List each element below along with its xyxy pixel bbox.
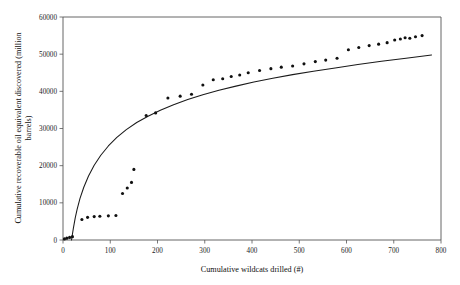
- x-tick-label: 400: [247, 247, 258, 255]
- data-point: [132, 168, 135, 171]
- data-point: [368, 44, 371, 47]
- data-point: [201, 83, 204, 86]
- chart-canvas: 0100200300400500600700800 01000020000300…: [0, 0, 460, 285]
- data-point: [230, 75, 233, 78]
- y-tick-label: 40000: [39, 88, 57, 96]
- y-tick-label: 0: [53, 237, 57, 245]
- x-axis-tick-labels: 0100200300400500600700800: [61, 247, 447, 255]
- data-point: [145, 114, 148, 117]
- data-point: [336, 57, 339, 60]
- data-point: [269, 67, 272, 70]
- data-point: [154, 111, 157, 114]
- data-point: [126, 186, 129, 189]
- data-point: [98, 215, 101, 218]
- x-tick-label: 600: [341, 247, 352, 255]
- x-tick-label: 300: [199, 247, 210, 255]
- data-point: [408, 37, 411, 40]
- chart-figure: 0100200300400500600700800 01000020000300…: [0, 0, 460, 285]
- data-point: [238, 73, 241, 76]
- data-point: [399, 37, 402, 40]
- data-point: [130, 181, 133, 184]
- data-point: [421, 34, 424, 37]
- x-axis-title: Cumulative wildcats drilled (#): [201, 265, 304, 274]
- y-tick-label: 20000: [39, 162, 57, 170]
- data-point: [357, 46, 360, 49]
- y-tick-label: 10000: [39, 199, 57, 207]
- fitted-curve: [72, 55, 432, 240]
- data-point: [65, 237, 68, 240]
- data-point: [68, 236, 71, 239]
- y-tick-label: 50000: [39, 51, 57, 59]
- data-point: [86, 216, 89, 219]
- data-point: [404, 36, 407, 39]
- y-axis-ticks: [60, 17, 64, 240]
- data-point: [114, 214, 117, 217]
- x-tick-label: 800: [436, 247, 447, 255]
- y-tick-label: 30000: [39, 125, 57, 133]
- x-tick-label: 100: [105, 247, 116, 255]
- data-point: [166, 96, 169, 99]
- data-point: [393, 38, 396, 41]
- data-point: [347, 48, 350, 51]
- data-point: [80, 218, 83, 221]
- data-point: [190, 93, 193, 96]
- y-axis-title-line-1: Cumulative recoverable oil equivalent di…: [14, 32, 23, 223]
- data-point: [221, 77, 224, 80]
- data-point: [212, 78, 215, 81]
- x-tick-label: 700: [388, 247, 399, 255]
- y-tick-label: 60000: [39, 14, 57, 22]
- x-tick-label: 500: [294, 247, 305, 255]
- data-point: [247, 71, 250, 74]
- y-axis-title-line-2: barrels): [24, 115, 33, 140]
- data-point: [291, 65, 294, 68]
- data-point: [324, 59, 327, 62]
- x-tick-label: 200: [152, 247, 163, 255]
- x-tick-label: 0: [61, 247, 65, 255]
- data-point: [93, 215, 96, 218]
- x-axis-ticks: [63, 240, 441, 244]
- y-axis-tick-labels: 0100002000030000400005000060000: [39, 14, 57, 245]
- plot-frame: [63, 17, 441, 240]
- data-point: [377, 43, 380, 46]
- data-point: [302, 62, 305, 65]
- data-point: [71, 235, 74, 238]
- data-point: [280, 66, 283, 69]
- data-point: [107, 214, 110, 217]
- data-point: [121, 192, 124, 195]
- data-point: [386, 41, 389, 44]
- data-point: [414, 35, 417, 38]
- data-point: [179, 95, 182, 98]
- data-point: [258, 69, 261, 72]
- data-point: [314, 60, 317, 63]
